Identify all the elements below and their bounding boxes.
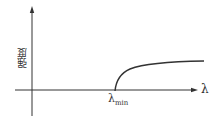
- x-axis-label: λ: [201, 82, 209, 96]
- lambda-symbol: λ: [108, 92, 115, 105]
- y-axis-label: 强度: [17, 48, 29, 68]
- min-subscript: min: [115, 99, 128, 107]
- x-axis-arrow-icon: [191, 88, 198, 92]
- y-axis-arrow-icon: [30, 6, 34, 13]
- lambda-min-label: λmin: [108, 92, 128, 107]
- intensity-curve: [115, 61, 204, 91]
